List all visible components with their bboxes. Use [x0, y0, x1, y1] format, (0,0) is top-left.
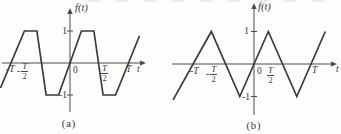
x-tick-label-neg-T-half: - T 2: [17, 62, 28, 81]
fraction-numerator: T: [268, 66, 273, 74]
x-axis-label: t: [336, 64, 339, 74]
caption-b: (b): [229, 120, 279, 132]
fraction-denominator: 2: [212, 75, 216, 84]
f-axis-arrow: [251, 3, 256, 9]
minus-sign: -: [206, 70, 209, 79]
y-tick-label-one: 1: [240, 26, 249, 36]
x-tick-label-T: T: [126, 64, 131, 74]
figure-waveforms: f(t) 1 -1 0 -T - T 2 T 2 T t (a) f(t) 1: [0, 0, 341, 134]
fraction-denominator: 2: [268, 76, 272, 85]
x-tick-label-neg-T-half: - T 2: [206, 65, 217, 84]
fraction-numerator: T: [22, 62, 27, 70]
y-axis-label: f(t): [258, 1, 271, 12]
f-axis-arrow: [67, 8, 72, 14]
fraction-stack: T 2: [210, 65, 217, 84]
fraction-numerator: T: [102, 64, 107, 72]
caption-a: (a): [44, 118, 94, 130]
x-tick-label-T-half: T 2: [267, 66, 274, 85]
origin-label: 0: [73, 65, 78, 75]
fraction-denominator: 2: [23, 72, 27, 81]
x-tick-label-neg-T: -T: [6, 64, 14, 74]
x-tick-label-neg-T: -T: [190, 66, 198, 76]
fraction-denominator: 2: [102, 74, 106, 83]
x-tick-label-T: T: [312, 65, 317, 75]
fraction-numerator: T: [211, 65, 216, 73]
y-axis-label: f(t): [75, 2, 88, 13]
x-tick-label-T-half: T 2: [101, 64, 108, 83]
fraction-stack: T 2: [21, 62, 28, 81]
panel-b: f(t) 1 -1 0 -T - T 2 T 2 T t (b): [171, 0, 341, 134]
y-tick-label-neg-one: -1: [236, 92, 250, 102]
minus-sign: -: [17, 67, 20, 76]
t-axis-arrow: [140, 60, 146, 65]
x-axis-label: t: [137, 64, 140, 74]
fraction-stack: T 2: [267, 66, 274, 85]
y-tick-label-neg-one: -1: [53, 90, 67, 100]
y-tick-label-one: 1: [58, 26, 67, 36]
panel-a: f(t) 1 -1 0 -T - T 2 T 2 T t (a): [0, 0, 170, 134]
origin-label: 0: [257, 66, 262, 76]
fraction-stack: T 2: [101, 64, 108, 83]
